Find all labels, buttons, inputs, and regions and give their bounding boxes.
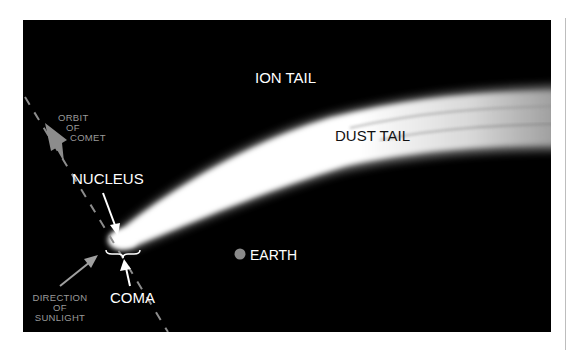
nucleus-label: NUCLEUS bbox=[72, 171, 144, 186]
ion-tail-label: ION TAIL bbox=[255, 70, 316, 85]
earth-label: EARTH bbox=[250, 248, 297, 262]
orbit-of-comet-label: ORBIT OF COMET bbox=[58, 113, 108, 143]
page-edge-divider bbox=[565, 18, 566, 350]
dust-tail-label: DUST TAIL bbox=[335, 128, 410, 143]
nucleus bbox=[116, 236, 124, 244]
coma-brace bbox=[106, 250, 140, 258]
earth-dot bbox=[235, 249, 246, 260]
direction-of-sunlight-label: DIRECTION OF SUNLIGHT bbox=[28, 293, 92, 323]
coma-label: COMA bbox=[110, 290, 155, 305]
coma-arrow-icon bbox=[120, 259, 131, 271]
